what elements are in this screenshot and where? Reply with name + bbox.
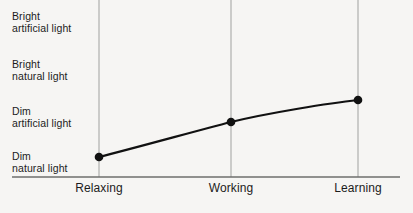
x-axis-label-relaxing: Relaxing <box>75 181 123 195</box>
data-point-working <box>227 118 236 127</box>
line-chart: Bright artificial light Bright natural l… <box>0 0 413 213</box>
y-axis-label-bright-natural-light: Bright natural light <box>12 58 68 83</box>
y-axis-label-bright-artificial-light: Bright artificial light <box>12 10 71 35</box>
x-axis-label-learning: Learning <box>334 181 382 195</box>
y-axis-label-dim-artificial-light: Dim artificial light <box>12 105 71 130</box>
y-axis-label-dim-natural-light: Dim natural light <box>12 150 68 175</box>
data-point-relaxing <box>95 153 104 162</box>
data-line <box>99 100 358 157</box>
gridlines <box>99 0 358 177</box>
data-point-learning <box>354 96 363 105</box>
x-axis-label-working: Working <box>209 181 254 195</box>
